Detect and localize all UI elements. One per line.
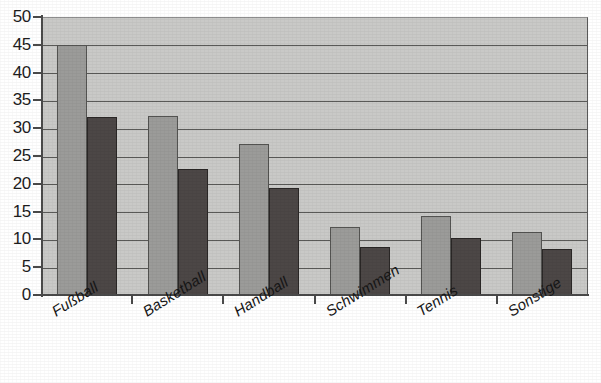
x-axis-tick <box>405 295 407 304</box>
y-axis-tick <box>33 127 42 129</box>
y-axis-tick-label: 15 <box>1 203 31 220</box>
y-axis-tick <box>33 99 42 101</box>
x-axis-tick <box>314 295 316 304</box>
y-axis-tick <box>33 211 42 213</box>
x-axis-line <box>33 294 589 296</box>
y-axis-tick <box>33 238 42 240</box>
y-axis-tick-label: 10 <box>1 230 31 247</box>
gridline <box>41 268 587 269</box>
y-axis-tick <box>33 155 42 157</box>
x-axis-tick <box>131 295 133 304</box>
bar <box>148 116 178 295</box>
gridline <box>41 129 587 130</box>
y-axis-tick-label: 40 <box>1 64 31 81</box>
y-axis-tick <box>33 72 42 74</box>
plot-area <box>41 17 588 295</box>
y-axis-tick-label: 35 <box>1 91 31 108</box>
gridline <box>41 184 587 185</box>
y-axis-tick-label: 25 <box>1 147 31 164</box>
y-axis-tick-labels: 05101520253035404550 <box>0 0 31 383</box>
y-axis-tick-label: 20 <box>1 175 31 192</box>
y-axis-tick <box>33 266 42 268</box>
y-axis-tick-label: 30 <box>1 119 31 136</box>
gridline <box>41 101 587 102</box>
bar <box>451 238 481 295</box>
bar <box>239 144 269 295</box>
y-axis-tick <box>33 294 42 296</box>
bar <box>57 45 87 295</box>
y-axis-tick <box>33 16 42 18</box>
gridline <box>41 212 587 213</box>
bar-chart-figure: 05101520253035404550 FußballBasketballHa… <box>0 0 601 383</box>
gridline <box>41 240 587 241</box>
x-axis-tick <box>496 295 498 304</box>
x-axis-tick <box>222 295 224 304</box>
y-axis-tick-label: 5 <box>1 258 31 275</box>
y-axis-tick-label: 50 <box>1 8 31 25</box>
bar <box>87 117 117 295</box>
gridline <box>41 45 587 46</box>
y-axis-tick <box>33 44 42 46</box>
y-axis-tick-label: 0 <box>1 286 31 303</box>
y-axis-tick <box>33 183 42 185</box>
y-axis-tick-label: 45 <box>1 36 31 53</box>
gridline <box>41 73 587 74</box>
gridline <box>41 157 587 158</box>
